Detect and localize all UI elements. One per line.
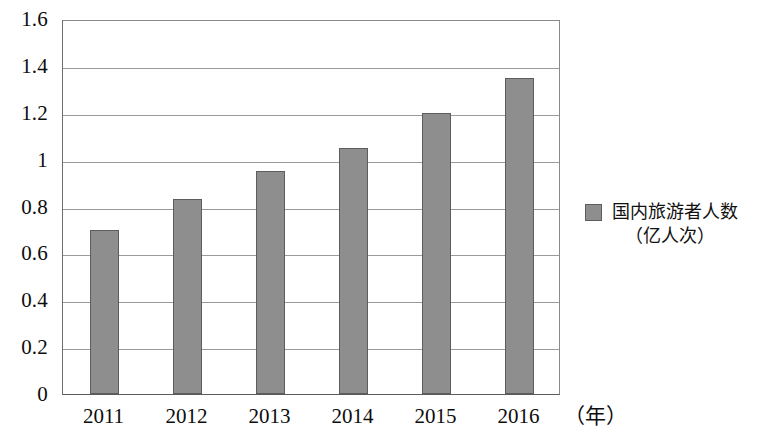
chart-legend: 国内旅游者人数 （亿人次）: [585, 200, 738, 248]
x-axis-tick-label: 2011: [59, 404, 149, 428]
bar: [173, 199, 202, 394]
legend-swatch-icon: [585, 204, 602, 221]
gridline: [63, 115, 559, 116]
bar: [256, 171, 285, 394]
bar: [90, 230, 119, 394]
gridline: [63, 349, 559, 350]
gridline: [63, 255, 559, 256]
y-axis-tick-label: 1.4: [0, 56, 48, 77]
x-axis-tick-label: 2012: [142, 404, 232, 428]
x-axis-tick-label: 2015: [391, 404, 481, 428]
gridline: [63, 302, 559, 303]
legend-label-series-name: 国内旅游者人数: [612, 200, 738, 224]
gridline: [63, 68, 559, 69]
gridline: [63, 209, 559, 210]
bar-chart-figure: 1.61.41.210.80.60.40.20 2011201220132014…: [0, 0, 763, 442]
legend-label-series-unit: （亿人次）: [612, 224, 738, 248]
bar: [505, 78, 534, 394]
y-axis-tick-label: 0.6: [0, 243, 48, 264]
y-axis-tick-label: 0.8: [0, 197, 48, 218]
y-axis-tick-label: 0: [0, 384, 48, 405]
gridline: [63, 162, 559, 163]
bar: [422, 113, 451, 394]
legend-label: 国内旅游者人数 （亿人次）: [612, 200, 738, 248]
x-axis-tick-label: 2016: [474, 404, 564, 428]
x-axis-unit-label: （年）: [564, 404, 627, 428]
y-axis-tick-label: 1.6: [0, 9, 48, 30]
x-axis-tick-label: 2014: [308, 404, 398, 428]
y-axis-tick-label: 1: [0, 150, 48, 171]
y-axis-tick-label: 1.2: [0, 103, 48, 124]
plot-area: [62, 20, 560, 395]
bar: [339, 148, 368, 394]
y-axis-tick-label: 0.4: [0, 290, 48, 311]
x-axis-tick-label: 2013: [225, 404, 315, 428]
y-axis-tick-label: 0.2: [0, 337, 48, 358]
